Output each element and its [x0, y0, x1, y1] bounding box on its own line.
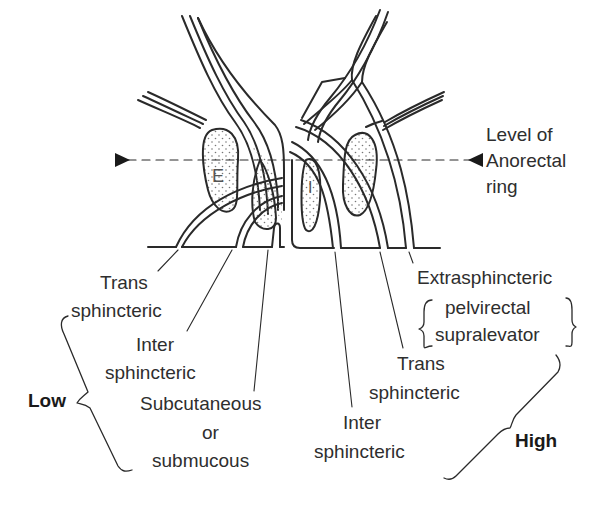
high-extra-line3: supralevator: [435, 324, 540, 346]
low-inter-line2: sphincteric: [105, 362, 196, 384]
low-group-label: Low: [28, 390, 66, 412]
high-trans-line2: sphincteric: [369, 382, 460, 404]
extrasphincteric-right-brace: [566, 298, 576, 346]
high-inter-line1: Inter: [343, 412, 381, 434]
level-label-line3: ring: [486, 176, 518, 198]
high-trans-line1: Trans: [397, 353, 445, 375]
high-brace: [444, 355, 560, 479]
high-extra-line2: pelvirectal: [445, 297, 531, 319]
left-arrowhead-icon: [115, 153, 130, 167]
low-brace: [61, 316, 132, 471]
level-label-line1: Level of: [486, 124, 553, 146]
level-label-line2: Anorectal: [486, 150, 566, 172]
low-trans-line1: Trans: [100, 272, 148, 294]
low-inter-line1: Inter: [136, 334, 174, 356]
high-extra-line1: Extrasphincteric: [417, 267, 552, 289]
fistula-diagram: [0, 0, 600, 514]
high-inter-line2: sphincteric: [314, 441, 405, 463]
extrasphincteric-left-brace: [419, 300, 432, 348]
left-levator-fibres: [138, 92, 206, 128]
low-subcut-line3: submucous: [152, 450, 249, 472]
internal-sphincter-label: I: [308, 177, 312, 199]
external-sphincter-right: [343, 133, 377, 215]
low-subcut-line2: or: [202, 422, 219, 444]
right-arrowhead-icon: [468, 153, 483, 167]
low-trans-line2: sphincteric: [71, 300, 162, 322]
high-group-label: High: [515, 430, 557, 452]
external-sphincter-label: E: [212, 165, 224, 187]
low-subcut-line1: Subcutaneous: [140, 393, 262, 415]
